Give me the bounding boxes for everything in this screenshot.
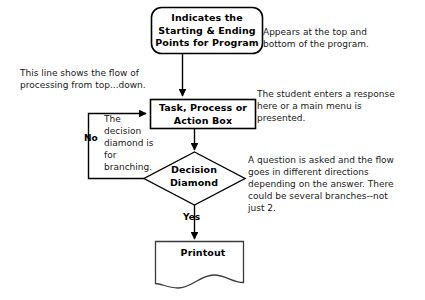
process-label: Task, Process or Action Box [152, 102, 254, 127]
annotation-terminator: Appears at the top and bottom of the pro… [263, 26, 423, 50]
annotation-process: The student enters a response here or a … [257, 88, 425, 124]
flowchart-canvas: Indicates the Starting & Ending Points f… [0, 0, 425, 300]
annotation-decision-right: A question is asked and the flow goes in… [248, 154, 425, 214]
printout-label: Printout [158, 247, 248, 260]
decision-label: Decision Diamond [158, 164, 230, 189]
edge-label-yes: Yes [183, 212, 200, 223]
edge-label-no: No [84, 133, 98, 144]
annotation-decision-left: The decision diamond is for branching. [104, 113, 162, 173]
annotation-flow-line: This line shows the flow of processing f… [20, 67, 165, 91]
terminator-label: Indicates the Starting & Ending Points f… [155, 12, 259, 50]
